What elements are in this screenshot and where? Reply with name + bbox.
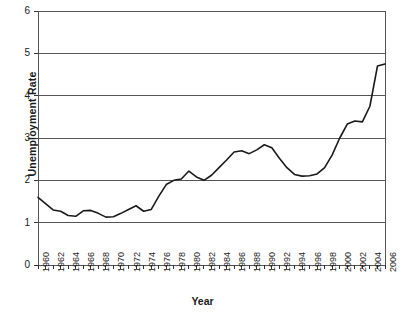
x-tick-label: 1964 — [72, 252, 81, 272]
x-tick-label: 1984 — [223, 252, 232, 272]
x-tick-label: 1980 — [193, 252, 202, 272]
x-tick-label: 1962 — [57, 252, 66, 272]
x-tick-label: 1996 — [314, 252, 323, 272]
x-tick-label: 1990 — [268, 252, 277, 272]
x-tick-label: 2004 — [374, 252, 383, 272]
chart-container: Unemployment Rate Year 01234561960196219… — [0, 0, 405, 315]
y-tick-label: 2 — [8, 175, 30, 185]
y-tick-label: 3 — [8, 133, 30, 143]
x-tick-label: 1994 — [298, 252, 307, 272]
y-tick-label: 1 — [8, 218, 30, 228]
x-tick-label: 2006 — [389, 252, 398, 272]
x-tick-label: 1960 — [42, 252, 51, 272]
y-tick-label: 4 — [8, 91, 30, 101]
x-tick-label: 1966 — [87, 252, 96, 272]
data-line-unemployment-rate — [38, 64, 385, 217]
x-tick-label: 2000 — [344, 252, 353, 272]
y-tick-label: 6 — [8, 6, 30, 16]
x-tick-label: 1968 — [102, 252, 111, 272]
x-tick-label: 2002 — [359, 252, 368, 272]
x-tick-label: 1976 — [163, 252, 172, 272]
x-tick-label: 1998 — [329, 252, 338, 272]
x-tick-label: 1974 — [148, 252, 157, 272]
x-tick-label: 1970 — [117, 252, 126, 272]
x-tick-label: 1982 — [208, 252, 217, 272]
y-tick-label: 0 — [8, 260, 30, 270]
x-tick-label: 1988 — [253, 252, 262, 272]
x-tick-label: 1986 — [238, 252, 247, 272]
x-tick-label: 1978 — [178, 252, 187, 272]
x-tick-label: 1972 — [133, 252, 142, 272]
x-tick-label: 1992 — [283, 252, 292, 272]
y-tick-label: 5 — [8, 48, 30, 58]
